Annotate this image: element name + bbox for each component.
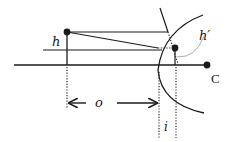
chief-ray [67, 32, 158, 48]
refracting-surface [158, 15, 204, 113]
object-distance-label: o [95, 95, 103, 110]
image-height-label: h′ [199, 28, 210, 43]
center-of-curvature-point [204, 62, 211, 69]
surface-normal [160, 8, 168, 32]
object-point [64, 29, 71, 36]
image-point [172, 45, 179, 52]
center-of-curvature-label: C [211, 71, 220, 86]
image-distance-label: i [164, 120, 168, 134]
refraction-diagram: h h′ o i C [0, 0, 234, 142]
object-height-label: h [52, 34, 60, 49]
